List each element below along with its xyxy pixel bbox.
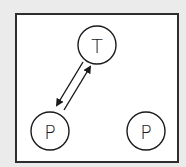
node-p-right-label: P [140,121,151,143]
node-t-label: T [91,35,103,57]
node-p-right: P [127,112,165,150]
edge-p-to-t-arrow [64,67,90,110]
node-p-left: P [31,112,69,150]
edge-t-to-p-arrow [57,62,83,105]
node-t: T [78,26,116,64]
node-p-left-label: P [44,121,55,143]
diagram-canvas: T P P [0,0,186,167]
